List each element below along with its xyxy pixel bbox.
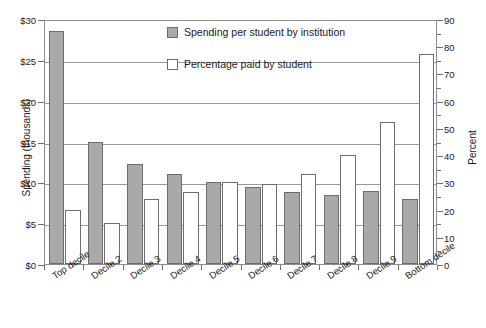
y-axis-right-tick-mark	[437, 102, 443, 103]
bar-spending	[245, 187, 261, 264]
y-axis-right-tick-label: 80	[444, 42, 455, 53]
legend-item-percentage: Percentage paid by student	[167, 58, 345, 70]
x-axis-tick-mark	[83, 265, 84, 270]
bar-group	[359, 21, 398, 264]
y-axis-left-tick-mark	[38, 20, 44, 21]
legend-label-percentage: Percentage paid by student	[184, 58, 312, 70]
x-axis-tick-mark	[241, 265, 242, 270]
legend-swatch-white-icon	[167, 59, 178, 70]
y-axis-right-tick-mark	[437, 156, 443, 157]
y-axis-left-tick-label: $10	[2, 178, 36, 189]
bar-spending	[284, 192, 300, 264]
y-axis-right-tick-mark	[437, 211, 443, 212]
y-axis-right-minor-tick-mark	[437, 143, 441, 144]
y-axis-right-tick-mark	[437, 47, 443, 48]
y-axis-right-tick-mark	[437, 129, 443, 130]
legend-swatch-gray-icon	[167, 27, 178, 38]
y-axis-left-tick-mark	[38, 61, 44, 62]
x-axis-tick-mark	[162, 265, 163, 270]
y-axis-right-title: Percent	[467, 83, 478, 213]
y-axis-right-tick-mark	[437, 238, 443, 239]
x-axis-tick-mark	[358, 265, 359, 270]
bar-percentage	[262, 184, 278, 264]
bar-percentage	[419, 54, 435, 264]
y-axis-left-tick-label: $15	[2, 137, 36, 148]
bar-spending	[167, 174, 183, 264]
y-axis-right-tick-mark	[437, 74, 443, 75]
bar-group	[84, 21, 123, 264]
y-axis-right-minor-tick-mark	[437, 61, 441, 62]
bar-percentage	[222, 182, 238, 264]
bar-spending	[49, 31, 65, 264]
bar-percentage	[340, 155, 356, 264]
y-axis-right-minor-tick-mark	[437, 34, 441, 35]
y-axis-right-tick-label: 90	[444, 15, 455, 26]
bar-spending	[324, 195, 340, 264]
bar-group	[45, 21, 84, 264]
y-axis-right-tick-label: 50	[444, 123, 455, 134]
y-axis-left-tick-label: $20	[2, 96, 36, 107]
x-axis-tick-mark	[201, 265, 202, 270]
y-axis-left-tick-mark	[38, 224, 44, 225]
y-axis-right-tick-label: 40	[444, 151, 455, 162]
y-axis-right-tick-mark	[437, 20, 443, 21]
bar-spending	[127, 164, 143, 264]
y-axis-left-tick-label: $5	[2, 219, 36, 230]
bar-spending	[206, 182, 222, 264]
y-axis-left-tick-mark	[38, 102, 44, 103]
legend-label-spending: Spending per student by institution	[184, 26, 345, 38]
y-axis-left-tick-label: $0	[2, 260, 36, 271]
y-axis-right-tick-label: 30	[444, 178, 455, 189]
y-axis-left-tick-label: $25	[2, 55, 36, 66]
y-axis-left-tick-mark	[38, 143, 44, 144]
x-axis-tick-mark	[44, 265, 45, 270]
x-axis-tick-mark	[319, 265, 320, 270]
y-axis-right-minor-tick-mark	[437, 224, 441, 225]
y-axis-right-tick-mark	[437, 183, 443, 184]
x-axis-tick-mark	[280, 265, 281, 270]
y-axis-right-tick-label: 70	[444, 69, 455, 80]
y-axis-left-tick-mark	[38, 183, 44, 184]
y-axis-right-tick-label: 60	[444, 96, 455, 107]
x-axis-tick-mark	[398, 265, 399, 270]
bar-spending	[402, 199, 418, 264]
bar-group	[399, 21, 438, 264]
legend-item-spending: Spending per student by institution	[167, 26, 345, 38]
y-axis-right-minor-tick-mark	[437, 115, 441, 116]
bar-percentage	[301, 174, 317, 264]
y-axis-right-minor-tick-mark	[437, 88, 441, 89]
y-axis-right-minor-tick-mark	[437, 197, 441, 198]
x-axis-tick-mark	[123, 265, 124, 270]
bar-group	[124, 21, 163, 264]
y-axis-left-tick-label: $30	[2, 15, 36, 26]
bar-spending	[363, 191, 379, 264]
x-axis-tick-mark	[437, 265, 438, 270]
y-axis-right-tick-label: 20	[444, 205, 455, 216]
bar-percentage	[380, 122, 396, 264]
bar-chart: Spending (thousands) Percent Spending pe…	[0, 0, 486, 328]
chart-legend: Spending per student by institution Perc…	[167, 26, 345, 90]
bar-spending	[88, 142, 104, 265]
y-axis-right-tick-label: 0	[444, 260, 449, 271]
y-axis-right-minor-tick-mark	[437, 170, 441, 171]
